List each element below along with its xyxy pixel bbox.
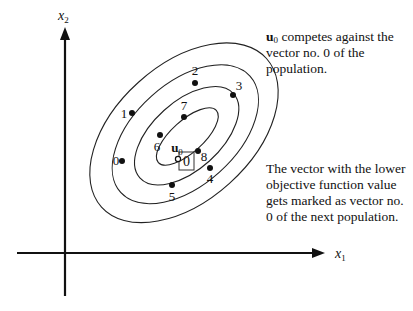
population-point-label: 3 bbox=[236, 78, 243, 93]
population-point-label: 8 bbox=[201, 149, 208, 164]
population-point-label: 6 bbox=[154, 139, 161, 154]
population-point-label: 7 bbox=[181, 98, 188, 113]
annotation-competition: u0 competes against the vector no. 0 of … bbox=[266, 29, 411, 77]
population-points: 012345678 bbox=[113, 63, 243, 204]
population-point-0 bbox=[119, 158, 125, 164]
y-axis-arrow-icon bbox=[60, 27, 70, 40]
population-point-label: 1 bbox=[121, 106, 128, 121]
annotation-selection: The vector with the lower objective func… bbox=[266, 161, 411, 225]
population-point-label: 0 bbox=[113, 153, 120, 168]
population-point-7 bbox=[181, 114, 187, 120]
population-point-6 bbox=[157, 132, 163, 138]
population-point-label: 4 bbox=[207, 171, 214, 186]
trial-vector-label: u0 bbox=[171, 140, 183, 157]
contour-ellipse-3 bbox=[87, 38, 285, 230]
x-axis-label: x1 bbox=[334, 246, 346, 263]
y-axis-label: x2 bbox=[57, 8, 69, 25]
population-point-label: 2 bbox=[192, 63, 199, 78]
trial-vector-point bbox=[175, 156, 180, 161]
highlighted-vector-label: 0 bbox=[183, 154, 190, 169]
population-point-label: 5 bbox=[169, 189, 176, 204]
population-point-1 bbox=[129, 110, 135, 116]
population-point-5 bbox=[169, 182, 175, 188]
x-axis-arrow-icon bbox=[312, 248, 325, 258]
population-point-2 bbox=[192, 80, 198, 86]
